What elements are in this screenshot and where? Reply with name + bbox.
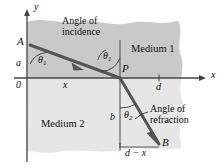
angle-of-refraction-callout: Angle of refraction	[150, 104, 189, 125]
angle-of-incidence-line1: Angle of	[62, 16, 100, 27]
refraction-diagram: y x 0 A B P Medium 1 Medium 2 Angle of i…	[0, 0, 223, 168]
dimension-b-label: b	[110, 112, 115, 123]
origin-label: 0	[16, 80, 21, 91]
x-axis-label: x	[211, 70, 215, 81]
theta1-label-at-p: θ1	[103, 51, 112, 63]
point-p-label: P	[122, 63, 129, 75]
theta1-subscript-a: 1	[43, 59, 47, 67]
point-a-label: A	[17, 36, 24, 48]
medium-1-label: Medium 1	[131, 43, 174, 54]
angle-of-refraction-line2: refraction	[150, 115, 189, 126]
dimension-d-minus-x-label: d − x	[125, 148, 146, 159]
y-axis-label: y	[34, 2, 38, 13]
angle-of-incidence-callout: Angle of incidence	[62, 16, 100, 37]
theta1-subscript-p: 1	[108, 55, 112, 63]
theta2-label-at-p: θ2	[124, 110, 133, 122]
dimension-d-label: d	[156, 82, 161, 93]
point-b-label: B	[162, 137, 169, 149]
theta2-subscript: 2	[129, 114, 133, 122]
medium-2-label: Medium 2	[41, 118, 84, 129]
dimension-x-label: x	[63, 80, 67, 91]
theta1-label-at-a: θ1	[38, 55, 47, 67]
dimension-a-label: a	[16, 58, 21, 69]
diagram-canvas	[0, 0, 223, 168]
angle-of-refraction-line1: Angle of	[150, 104, 189, 115]
angle-of-incidence-line2: incidence	[62, 27, 100, 38]
medium-2-region	[0, 78, 223, 168]
